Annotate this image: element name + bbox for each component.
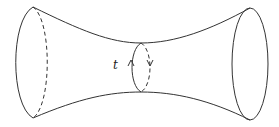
top-profile-curve [33, 7, 250, 43]
loop-label: t [113, 58, 118, 72]
bottom-profile-curve [33, 92, 250, 120]
hyperboloid-diagram [0, 0, 279, 127]
left-ellipse-back [33, 7, 47, 118]
left-ellipse-front [16, 7, 33, 118]
arrow-up-icon [128, 60, 134, 66]
loop-back [141, 43, 150, 92]
right-ellipse [232, 8, 268, 120]
loop-front [132, 43, 141, 92]
